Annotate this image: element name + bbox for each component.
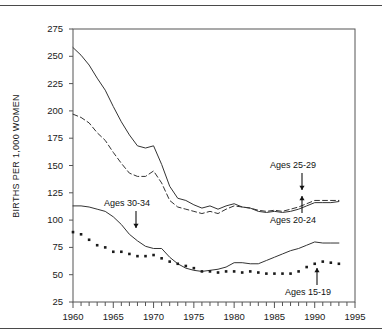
data-point-marker <box>72 231 75 234</box>
y-tick-label: 50 <box>31 269 63 280</box>
y-tick-label: 175 <box>31 132 63 143</box>
data-point-marker <box>289 272 292 275</box>
y-tick-label: 275 <box>31 23 63 34</box>
arrow-ages-30-34 <box>133 211 138 228</box>
y-tick-label: 225 <box>31 78 63 89</box>
data-point-marker <box>217 271 220 274</box>
figure-container: BIRTHS PER 1,000 WOMEN 25507510012515017… <box>0 0 382 336</box>
data-point-marker <box>201 270 204 273</box>
series-line <box>73 48 339 213</box>
data-point-marker <box>193 267 196 270</box>
data-point-marker <box>273 272 276 275</box>
data-point-marker <box>120 250 123 253</box>
data-point-marker <box>168 260 171 263</box>
x-tick-label: 1965 <box>93 311 133 322</box>
data-point-marker <box>88 238 91 241</box>
y-tick-label: 25 <box>31 296 63 307</box>
y-tick-label: 125 <box>31 187 63 198</box>
annotation-ages-15-19: Ages 15-19 <box>285 287 331 297</box>
data-point-marker <box>128 253 131 256</box>
y-tick-label: 250 <box>31 50 63 61</box>
data-point-marker <box>249 270 252 273</box>
data-point-marker <box>281 272 284 275</box>
data-point-marker <box>136 255 139 258</box>
x-tick-label: 1975 <box>174 311 214 322</box>
data-point-marker <box>152 254 155 257</box>
data-point-marker <box>297 270 300 273</box>
y-tick-label: 75 <box>31 241 63 252</box>
data-point-marker <box>241 271 244 274</box>
y-tick-label: 200 <box>31 105 63 116</box>
data-point-marker <box>233 270 236 273</box>
data-point-marker <box>185 265 188 268</box>
arrow-ages-15-19 <box>314 268 319 285</box>
x-tick-label: 1960 <box>53 311 93 322</box>
data-point-marker <box>305 266 308 269</box>
data-point-marker <box>176 262 179 265</box>
data-point-marker <box>313 262 316 265</box>
arrow-ages-25-29 <box>299 173 304 190</box>
data-point-marker <box>112 250 115 253</box>
x-tick-label: 1980 <box>214 311 254 322</box>
annotation-ages-30-34: Ages 30-34 <box>104 198 150 208</box>
data-point-marker <box>265 272 268 275</box>
y-tick-label: 150 <box>31 160 63 171</box>
y-tick-label: 100 <box>31 214 63 225</box>
data-point-marker <box>330 261 333 264</box>
x-tick-label: 1970 <box>134 311 174 322</box>
x-tick-label: 1995 <box>335 311 375 322</box>
data-point-marker <box>209 270 212 273</box>
data-point-marker <box>225 270 228 273</box>
data-point-marker <box>338 262 341 265</box>
x-tick-label: 1985 <box>254 311 294 322</box>
data-point-marker <box>321 260 324 263</box>
data-point-marker <box>144 255 147 258</box>
data-point-marker <box>80 233 83 236</box>
data-point-marker <box>96 244 99 247</box>
data-point-marker <box>160 257 163 260</box>
data-point-marker <box>104 246 107 249</box>
data-point-marker <box>257 271 260 274</box>
annotation-ages-20-24: Ages 20-24 <box>270 215 316 225</box>
annotation-ages-25-29: Ages 25-29 <box>270 160 316 170</box>
x-tick-label: 1990 <box>295 311 335 322</box>
